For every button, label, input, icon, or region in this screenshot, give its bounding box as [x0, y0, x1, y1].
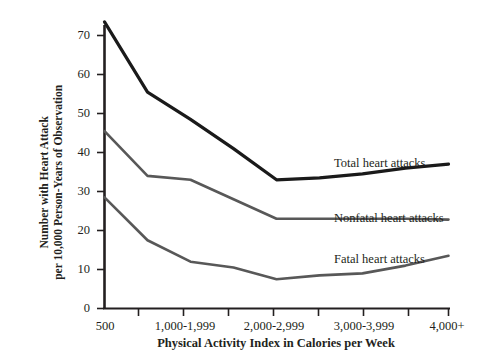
- y-tick-label-10: 10: [64, 263, 90, 276]
- y-tick-label-0: 0: [64, 302, 90, 315]
- series-lines: [105, 22, 449, 279]
- y-axis-ticks: [97, 36, 104, 309]
- x-tick-label-500: 500: [96, 320, 115, 333]
- series-label-fatal-heart-attacks: Fatal heart attacks: [334, 253, 425, 266]
- y-axis-title-line1: Number with Heart Attack: [38, 116, 50, 248]
- y-tick-label-60: 60: [64, 68, 90, 81]
- y-tick-label-20: 20: [64, 224, 90, 237]
- y-axis-title-line2: per 10,000 Person-Years of Observation: [52, 85, 64, 280]
- y-axis-title: Number with Heart Attack per 10,000 Pers…: [37, 57, 66, 307]
- y-tick-label-30: 30: [64, 185, 90, 198]
- x-tick-label-1000-1999: 1,000-1,999: [155, 320, 215, 333]
- series-line-nonfatal-heart-attacks: [105, 131, 449, 220]
- series-label-nonfatal-heart-attacks: Nonfatal heart attacks: [334, 212, 444, 225]
- series-line-fatal-heart-attacks: [105, 197, 449, 279]
- y-tick-label-70: 70: [64, 29, 90, 42]
- series-label-total-heart-attacks: Total heart attacks: [334, 157, 425, 170]
- y-tick-label-50: 50: [64, 107, 90, 120]
- x-axis-title: Physical Activity Index in Calories per …: [104, 336, 448, 351]
- x-tick-label-3000-3999: 3,000-3,999: [334, 320, 394, 333]
- x-tick-label-4000-plus: 4,000+: [429, 320, 464, 333]
- x-tick-label-2000-2999: 2,000-2,999: [244, 320, 304, 333]
- y-tick-label-40: 40: [64, 146, 90, 159]
- chart-figure: 70 60 50 40 30 20 10 0 500 1,000-1,999 2…: [0, 0, 491, 361]
